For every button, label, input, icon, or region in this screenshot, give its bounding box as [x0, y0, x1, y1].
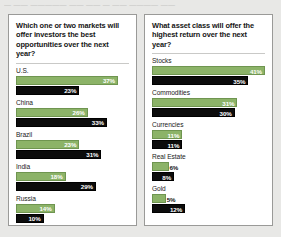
- bar-value-label: 33%: [92, 119, 104, 126]
- bar-value-label: 8%: [162, 173, 171, 180]
- bar-green: 31%: [152, 98, 237, 107]
- bar-dark: 29%: [16, 182, 96, 191]
- title-divider: [16, 63, 129, 64]
- chart-title: What asset class will offer the highest …: [152, 21, 265, 49]
- category-label: Currencies: [152, 121, 265, 129]
- bar-rows: Stocks41%35%Commodities31%30%Currencies1…: [152, 57, 265, 221]
- chart-title: Which one or two markets will offer inve…: [16, 21, 129, 59]
- category-label: Brazil: [16, 131, 129, 139]
- bar-group: Brazil23%31%: [16, 131, 129, 160]
- chart-panel-2: What asset class will offer the highest …: [144, 14, 273, 226]
- bar-dark: 23%: [16, 86, 79, 95]
- bar-value-label: 10%: [28, 215, 40, 222]
- title-divider: [152, 53, 265, 54]
- bar-value-label: 6%: [170, 163, 179, 170]
- bar-dark: 30%: [152, 108, 235, 117]
- bar-green: 26%: [16, 108, 88, 117]
- scan-artifact-text: — —— ————— —— —— — —— ———— ——: [4, 0, 272, 9]
- bar-value-label: 29%: [81, 183, 93, 190]
- bar-green: 41%: [152, 66, 265, 75]
- bar-group: U.S.37%23%: [16, 67, 129, 96]
- bar-green: 14%: [16, 204, 55, 213]
- bar-dark: 8%: [152, 172, 174, 181]
- bar-dark: 12%: [152, 204, 185, 213]
- bar-value-label: 18%: [51, 173, 63, 180]
- bar-value-label: 41%: [250, 67, 262, 74]
- category-label: Stocks: [152, 57, 265, 65]
- bar-dark: 10%: [16, 214, 44, 223]
- category-label: China: [16, 99, 129, 107]
- chart-panels: Which one or two markets will offer inve…: [8, 14, 273, 226]
- bar-green: 11%: [152, 130, 182, 139]
- bar-dark: 31%: [16, 150, 101, 159]
- bar-rows: U.S.37%23%China26%33%Brazil23%31%India18…: [16, 67, 129, 226]
- bar-group: Commodities31%30%: [152, 89, 265, 118]
- bar-value-label: 30%: [220, 109, 232, 116]
- bar-group: Stocks41%35%: [152, 57, 265, 86]
- bar-green: 5%: [152, 194, 166, 203]
- category-label: U.S.: [16, 67, 129, 75]
- bar-value-label: 37%: [103, 77, 115, 84]
- bar-green: 23%: [16, 140, 79, 149]
- category-label: Real Estate: [152, 153, 265, 161]
- bar-value-label: 26%: [73, 109, 85, 116]
- bar-group: China26%33%: [16, 99, 129, 128]
- bar-value-label: 23%: [64, 141, 76, 148]
- bar-value-label: 5%: [167, 195, 176, 202]
- bar-group: Russia14%10%: [16, 195, 129, 224]
- category-label: India: [16, 163, 129, 171]
- bar-value-label: 12%: [170, 205, 182, 212]
- bar-value-label: 35%: [233, 77, 245, 84]
- bar-group: Real Estate6%8%: [152, 153, 265, 182]
- bar-dark: 35%: [152, 76, 248, 85]
- bar-green: 37%: [16, 76, 118, 85]
- bar-value-label: 31%: [86, 151, 98, 158]
- bar-group: Currencies11%11%: [152, 121, 265, 150]
- bar-value-label: 14%: [39, 205, 51, 212]
- bar-value-label: 11%: [168, 131, 180, 138]
- bar-group: Gold5%12%: [152, 185, 265, 214]
- bar-group: India18%29%: [16, 163, 129, 192]
- chart-panel-1: Which one or two markets will offer inve…: [8, 14, 137, 226]
- category-label: Russia: [16, 195, 129, 203]
- category-label: Commodities: [152, 89, 265, 97]
- bar-value-label: 11%: [168, 141, 180, 148]
- bar-value-label: 23%: [64, 87, 76, 94]
- bar-green: 18%: [16, 172, 66, 181]
- bar-dark: 11%: [152, 140, 182, 149]
- bar-green: 6%: [152, 162, 169, 171]
- bar-value-label: 31%: [222, 99, 234, 106]
- category-label: Gold: [152, 185, 265, 193]
- bar-dark: 33%: [16, 118, 107, 127]
